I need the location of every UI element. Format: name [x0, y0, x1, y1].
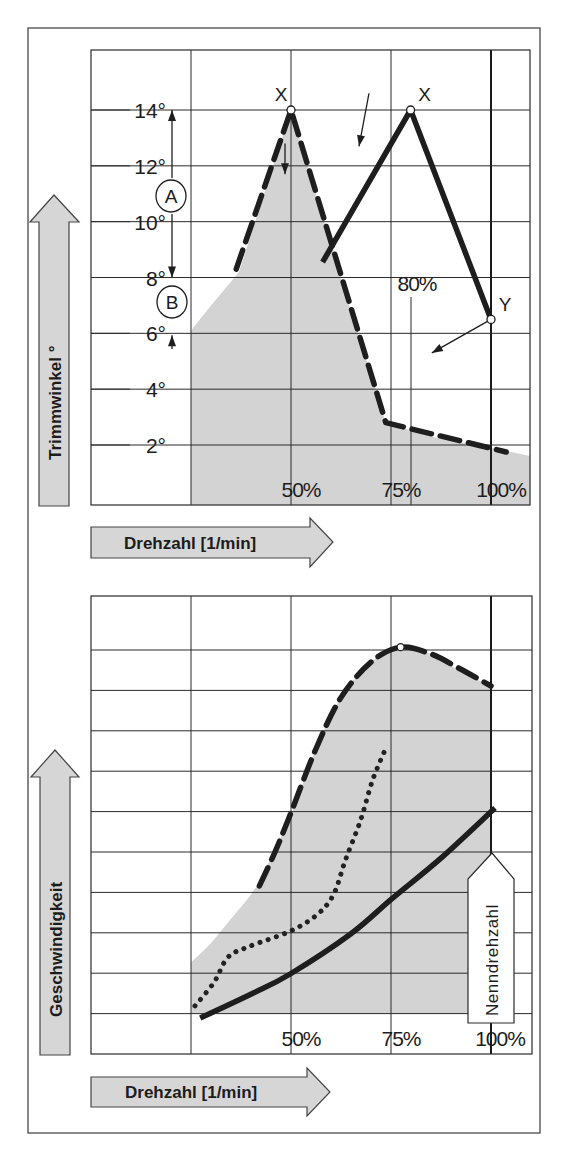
trim-angle-chart: 14° 12° 10° 8° 6° 4° 2° 50% 75% 100% 80%…	[30, 50, 531, 567]
arrowhead	[357, 135, 365, 147]
arrowhead	[168, 335, 176, 346]
point-label: X	[418, 84, 431, 105]
point-label: X	[275, 84, 288, 105]
x-axis-label: Drehzahl [1/min]	[125, 1083, 257, 1102]
circle-label-b: B	[166, 292, 179, 313]
marker-points	[397, 644, 404, 651]
y-tick-label: 2°	[146, 434, 166, 457]
arrowhead	[168, 267, 176, 278]
y-tick-label: 8°	[146, 267, 166, 290]
x-tick-label: 100%	[475, 1027, 525, 1050]
rated-speed-label: Nenndrehzahl	[483, 904, 502, 1016]
y-axis-label: Geschwindigkeit	[47, 882, 66, 1017]
y-tick-label: 6°	[146, 322, 166, 345]
speed-chart: Nenndrehzahl 50% 75% 100% Geschwindigkei…	[31, 596, 532, 1116]
reference-label: 80%	[397, 272, 436, 295]
y-tick-label: 10°	[134, 211, 166, 234]
figure: 14° 12° 10° 8° 6° 4° 2° 50% 75% 100% 80%…	[0, 0, 565, 1165]
y-axis-label: Trimmwinkel °	[46, 345, 65, 460]
x-tick-label: 50%	[281, 478, 320, 501]
x-axis-label: Drehzahl [1/min]	[124, 534, 256, 553]
point-marker	[287, 106, 295, 114]
y-tick-label: 14°	[134, 99, 166, 122]
arrowhead	[168, 110, 176, 121]
point-label: Y	[499, 294, 512, 315]
x-tick-label: 50%	[281, 1027, 320, 1050]
arrowhead	[432, 344, 444, 353]
y-tick-label: 4°	[146, 378, 166, 401]
point-marker	[487, 315, 495, 323]
point-marker	[407, 106, 415, 114]
y-tick-label: 12°	[134, 155, 166, 178]
x-tick-label: 75%	[381, 1027, 420, 1050]
point-marker	[397, 644, 404, 651]
x-tick-label: 100%	[476, 478, 526, 501]
x-tick-label: 75%	[381, 478, 420, 501]
circle-label-a: A	[165, 186, 178, 207]
